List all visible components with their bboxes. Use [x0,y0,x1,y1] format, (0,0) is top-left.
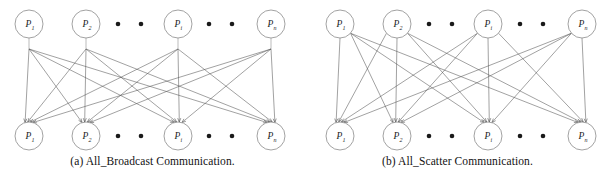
top-row-ellipsis-dot-1 [116,22,121,27]
top-row-node-label-3: P [173,19,180,29]
bottom-row-node-label-2: P [81,131,88,141]
edge-layer [335,33,588,122]
top-row-node-label-3: P [483,19,490,29]
top-row-node-4[interactable]: Pn [257,10,285,38]
edge-1-3 [408,33,581,122]
bottom-row-node-1[interactable]: P1 [15,122,43,150]
bottom-row-node-2[interactable]: P2 [383,122,411,150]
bottom-row-node-label-4: P [577,131,584,141]
top-row-ellipsis-dot-3 [518,22,523,27]
edge-0-3 [29,49,267,123]
edge-layer [24,38,276,123]
figure-panel-all-broadcast: P1P2PiPnP1P2PiPn(a) All_Broadcast Commun… [0,0,305,180]
top-row-node-subscript-2: 2 [88,25,91,31]
diagram-all-broadcast: P1P2PiPnP1P2PiPn [0,0,305,155]
figure-caption-all-broadcast: (a) All_Broadcast Communication. [0,155,305,167]
bottom-row-node-subscript-4: n [273,137,276,143]
diagram-all-scatter: P1P2PiPnP1P2PiPn [305,0,610,155]
top-row-ellipsis-dot-3 [207,22,212,27]
edge-3-1 [401,33,572,122]
bottom-row-node-4[interactable]: Pn [568,122,596,150]
edge-2-0 [341,33,477,122]
top-row-node-label-1: P [335,19,342,29]
bottom-row-node-label-2: P [392,131,399,141]
edge-0-1 [351,33,394,122]
edge-2-2 [488,38,489,122]
edge-3-2 [182,49,271,123]
bottom-row-ellipsis-dot-2 [139,134,144,139]
top-row-node-label-1: P [24,19,31,29]
top-row-node-1[interactable]: P1 [326,10,354,38]
bottom-row-node-subscript-2: 2 [88,137,91,143]
bottom-row-node-subscript-1: 1 [31,137,34,143]
top-row-ellipsis-dot-2 [139,22,144,27]
top-row-ellipsis-dot-1 [427,22,432,27]
edge-3-2 [492,33,572,122]
top-row-ellipsis-dot-4 [541,22,546,27]
top-row-node-label-4: P [266,19,273,29]
bottom-row-node-label-1: P [24,131,31,141]
edge-1-2 [408,33,487,122]
bottom-row-node-subscript-1: 1 [342,137,345,143]
bottom-row-node-label-3: P [173,131,180,141]
edge-2-3 [499,33,584,122]
edge-3-3 [582,38,586,123]
edge-1-1 [396,38,397,122]
figure-row: P1P2PiPnP1P2PiPn(a) All_Broadcast Commun… [0,0,610,180]
bottom-row-ellipsis-dot-4 [541,134,546,139]
bottom-row-node-subscript-2: 2 [399,137,402,143]
edge-1-2 [86,49,177,122]
top-row-node-label-2: P [392,19,399,29]
top-row-node-2[interactable]: P2 [72,10,100,38]
bottom-row-ellipsis-dot-3 [518,134,523,139]
figure-panel-all-scatter: P1P2PiPnP1P2PiPn(b) All_Scatter Communic… [305,0,610,180]
bottom-row-ellipsis-dot-4 [230,134,235,139]
bottom-row-node-4[interactable]: Pn [257,122,285,150]
top-row-node-subscript-2: 2 [399,25,402,31]
top-row-ellipsis-dot-2 [450,22,455,27]
edge-1-1 [85,49,86,122]
bottom-row-node-subscript-4: n [584,137,587,143]
top-row-node-subscript-4: n [273,25,276,31]
edge-0-1 [29,49,82,123]
edge-3-3 [271,49,275,123]
arrow-head [480,119,484,122]
bottom-row-ellipsis-dot-1 [116,134,121,139]
edge-2-1 [398,33,477,122]
bottom-row-node-label-1: P [335,131,342,141]
top-row-node-3[interactable]: Pi [164,10,192,38]
bottom-row-node-2[interactable]: P2 [72,122,100,150]
bottom-row-ellipsis-dot-3 [207,134,212,139]
top-row-node-4[interactable]: Pn [568,10,596,38]
top-row-node-label-4: P [577,19,584,29]
top-row-ellipsis-dot-4 [230,22,235,27]
top-row-node-subscript-4: n [584,25,587,31]
bottom-row-node-label-3: P [483,131,490,141]
edge-2-0 [30,49,178,122]
top-row-node-1[interactable]: P1 [15,10,43,38]
top-row-node-subscript-1: 1 [342,25,345,31]
edge-1-3 [86,49,270,122]
bottom-row-node-3[interactable]: Pi [474,122,502,150]
bottom-row-ellipsis-dot-2 [450,134,455,139]
bottom-row-node-label-4: P [266,131,273,141]
bottom-row-node-3[interactable]: Pi [164,122,192,150]
top-row-node-subscript-1: 1 [31,25,34,31]
bottom-row-node-1[interactable]: P1 [326,122,354,150]
edge-0-0 [25,49,29,123]
top-row-node-label-2: P [81,19,88,29]
bottom-row-ellipsis-dot-1 [427,134,432,139]
top-row-node-2[interactable]: P2 [383,10,411,38]
edge-1-0 [28,49,86,122]
edge-3-0 [344,33,572,122]
top-row-node-3[interactable]: Pi [474,10,502,38]
edge-0-0 [336,38,340,123]
figure-caption-all-scatter: (b) All_Scatter Communication. [305,155,610,167]
